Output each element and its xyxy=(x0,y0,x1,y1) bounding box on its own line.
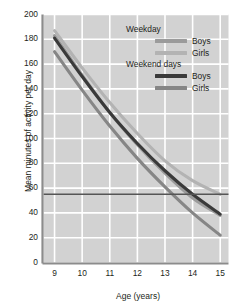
x-tick-label: 10 xyxy=(71,268,93,278)
x-tick-label: 14 xyxy=(182,268,204,278)
legend-group-heading: Weekend days xyxy=(126,59,218,69)
legend-entry: Boys xyxy=(122,35,218,46)
x-tick-label: 13 xyxy=(154,268,176,278)
y-tick-label: 200 xyxy=(12,9,38,19)
legend-group-heading: Weekday xyxy=(126,24,218,34)
legend-entry-label: Boys xyxy=(192,36,218,46)
x-tick-label: 11 xyxy=(99,268,121,278)
legend-color-swatch xyxy=(155,74,187,78)
y-tick-label: 60 xyxy=(12,182,38,192)
x-tick-label: 9 xyxy=(44,268,66,278)
y-tick-label: 160 xyxy=(12,58,38,68)
x-axis-title-wrapper: Age (years) xyxy=(43,285,233,303)
y-tick-label: 180 xyxy=(12,33,38,43)
legend-entry-label: Girls xyxy=(192,83,218,93)
y-tick-label: 120 xyxy=(12,108,38,118)
y-tick-label: 20 xyxy=(12,232,38,242)
chart-legend: WeekdayBoysGirlsWeekend daysBoysGirls xyxy=(122,24,218,94)
x-tick-label: 12 xyxy=(126,268,148,278)
y-tick-label: 80 xyxy=(12,157,38,167)
legend-entry-label: Boys xyxy=(192,71,218,81)
legend-color-swatch xyxy=(155,86,187,90)
y-tick-label: 140 xyxy=(12,83,38,93)
x-tick-label: 15 xyxy=(209,268,231,278)
x-axis-title: Age (years) xyxy=(116,291,160,301)
legend-entry: Girls xyxy=(122,82,218,93)
legend-entry-label: Girls xyxy=(192,48,218,58)
legend-entry: Boys xyxy=(122,70,218,81)
activity-by-age-line-chart: Mean minutes of activity per day Age (ye… xyxy=(0,0,237,304)
y-tick-label: 0 xyxy=(12,257,38,267)
legend-color-swatch xyxy=(155,51,187,55)
y-tick-label: 40 xyxy=(12,207,38,217)
legend-color-swatch xyxy=(155,39,187,43)
legend-entry: Girls xyxy=(122,47,218,58)
y-tick-label: 100 xyxy=(12,133,38,143)
